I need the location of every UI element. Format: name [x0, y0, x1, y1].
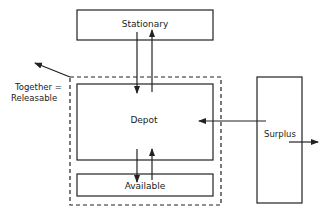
depot-label: Depot	[130, 115, 157, 125]
arrow-releasable-out	[35, 63, 70, 77]
group-label-line1: Together =	[15, 82, 62, 92]
surplus-box	[257, 77, 302, 203]
stationary-label: Stationary	[122, 19, 169, 29]
surplus-label: Surplus	[264, 129, 296, 139]
available-label: Available	[125, 181, 166, 191]
group-label-line2: Releasable	[11, 93, 57, 103]
